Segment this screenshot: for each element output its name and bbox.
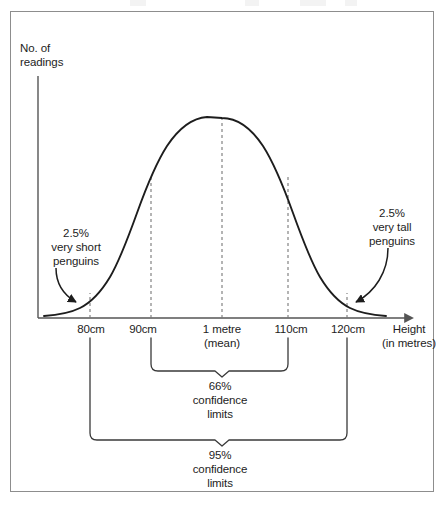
bell-curve [44, 117, 386, 316]
x-tick-label-120cm: 120cm [318, 322, 378, 336]
left-tail-arrow [56, 268, 76, 302]
x-tick-label-1metre-mean: 1 metre (mean) [188, 322, 256, 350]
y-axis-label: No. of readings [20, 41, 63, 69]
x-axis-label: Height (in metres) [372, 322, 446, 350]
x-tick-label-80cm: 80cm [61, 322, 121, 336]
left-tail-annotation: 2.5% very short penguins [30, 226, 122, 268]
right-tail-arrow [356, 248, 388, 302]
x-tick-label-110cm: 110cm [261, 322, 321, 336]
confidence-66-label: 66% confidence limits [160, 379, 280, 421]
diagram-page: No. of readings 2.5% very short penguins… [0, 0, 446, 505]
x-tick-label-90cm: 90cm [113, 322, 173, 336]
right-tail-annotation: 2.5% very tall penguins [348, 206, 436, 248]
confidence-95-label: 95% confidence limits [160, 448, 280, 490]
